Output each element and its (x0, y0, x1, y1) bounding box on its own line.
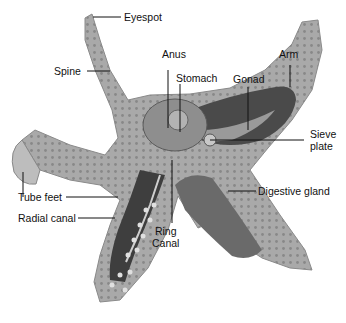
label-ring-canal: Ring Canal (152, 225, 179, 249)
label-gonad: Gonad (233, 73, 265, 85)
label-tube-feet: Tube feet (18, 191, 62, 203)
label-sieve-plate: Sieve plate (310, 128, 336, 152)
starfish-diagram: Eyespot Spine Anus Arm Stomach Gonad Sie… (0, 0, 346, 323)
label-radial-canal: Radial canal (18, 212, 76, 224)
label-spine: Spine (54, 65, 81, 77)
label-stomach: Stomach (176, 72, 217, 84)
label-anus: Anus (162, 48, 186, 60)
label-eyespot: Eyespot (124, 11, 162, 23)
label-digestive-gland: Digestive gland (258, 185, 330, 197)
label-arm: Arm (279, 48, 298, 60)
